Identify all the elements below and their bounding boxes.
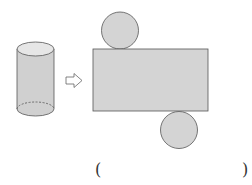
net-top-circle xyxy=(102,12,139,49)
answer-blank[interactable] xyxy=(110,162,240,178)
net-lateral-rectangle xyxy=(93,49,208,111)
answer-close-paren: ) xyxy=(242,162,248,178)
hollow-right-arrow-icon xyxy=(66,74,82,88)
net-bottom-circle xyxy=(161,112,198,149)
cylinder-figure xyxy=(17,42,54,116)
cylinder-net-diagram xyxy=(0,0,252,185)
cylinder-net xyxy=(93,12,208,149)
answer-open-paren: ( xyxy=(95,162,101,178)
